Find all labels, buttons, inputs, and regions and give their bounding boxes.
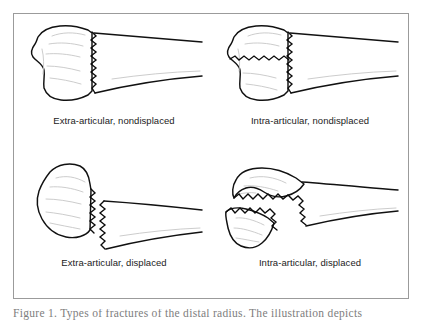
bone-illustration-intra-articular-displaced xyxy=(212,156,408,256)
panel-label-intra-articular-nondisplaced: Intra-articular, nondisplaced xyxy=(212,115,408,127)
panel-extra-articular-displaced: Extra-articular, displaced xyxy=(16,156,212,298)
panel-extra-articular-nondisplaced: Extra-articular, nondisplaced xyxy=(16,16,212,156)
figure-root: Extra-articular, nondisplaced xyxy=(0,0,424,320)
figure-caption-text: Figure 1. Types of fractures of the dist… xyxy=(13,309,409,320)
panel-intra-articular-nondisplaced: Intra-articular, nondisplaced xyxy=(212,16,408,156)
figure-caption-strip: Figure 1. Types of fractures of the dist… xyxy=(13,309,409,320)
figure-frame: Extra-articular, nondisplaced xyxy=(13,13,409,299)
panel-label-extra-articular-nondisplaced: Extra-articular, nondisplaced xyxy=(16,115,212,127)
panel-label-intra-articular-displaced: Intra-articular, displaced xyxy=(212,257,408,269)
bone-illustration-intra-articular-nondisplaced xyxy=(212,16,408,116)
bone-illustration-extra-articular-displaced xyxy=(16,156,212,256)
panel-label-extra-articular-displaced: Extra-articular, displaced xyxy=(16,257,212,269)
panel-intra-articular-displaced: Intra-articular, displaced xyxy=(212,156,408,298)
bone-illustration-extra-articular-nondisplaced xyxy=(16,16,212,116)
